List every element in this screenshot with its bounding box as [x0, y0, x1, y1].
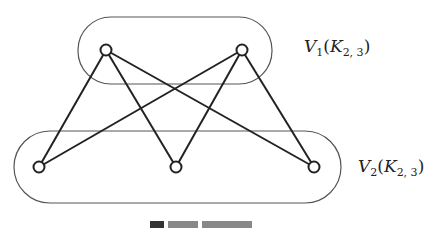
figure-caption-cropped: [150, 221, 300, 228]
vertex-a1: [101, 45, 112, 56]
label-k: K: [330, 36, 343, 56]
vertex-b3: [309, 162, 320, 173]
group-label-v1: V1(K2, 3): [304, 36, 370, 56]
group-label-v2: V2(K2, 3): [358, 156, 424, 176]
paren-open: (: [377, 156, 384, 176]
vertex-a2: [237, 45, 248, 56]
paren-close: ): [418, 156, 425, 176]
vertex-b2: [171, 162, 182, 173]
label-k-sub: 2, 3: [397, 166, 418, 179]
paren-open: (: [323, 36, 330, 56]
edge-a2-b3: [242, 50, 314, 167]
label-k: K: [384, 156, 397, 176]
edge-a2-b2: [176, 50, 242, 167]
edge-a1-b1: [39, 50, 106, 167]
bipartite-graph-diagram: [0, 0, 448, 228]
label-v: V: [304, 36, 316, 56]
vertex-b1: [34, 162, 45, 173]
paren-close: ): [364, 36, 371, 56]
nodes: [34, 45, 320, 173]
label-k-sub: 2, 3: [343, 46, 364, 59]
label-v: V: [358, 156, 370, 176]
edges: [39, 50, 314, 167]
